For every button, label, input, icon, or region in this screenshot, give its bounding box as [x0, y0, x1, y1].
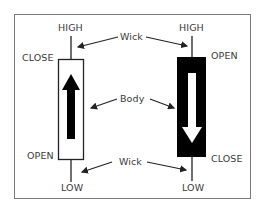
wick-arrow-right-top [146, 37, 187, 46]
callout-wick-top: Wick [120, 31, 143, 42]
label-right-close: CLOSE [211, 153, 243, 164]
label-right-high: HIGH [179, 22, 204, 33]
body-arrow-left [91, 99, 117, 108]
callout-arrows [78, 37, 187, 172]
label-left-close: CLOSE [22, 52, 54, 63]
wick-arrow-left-bottom [82, 162, 112, 172]
callout-body: Body [120, 93, 144, 104]
label-left-open: OPEN [27, 150, 54, 161]
label-right-low: LOW [182, 182, 204, 193]
wick-arrow-right-bottom [147, 162, 186, 170]
bearish-candle [177, 36, 206, 181]
callout-wick-bottom: Wick [119, 156, 142, 167]
label-left-high: HIGH [58, 22, 83, 33]
wick-arrow-left-top [78, 37, 118, 47]
body-arrow-right [150, 99, 174, 108]
bullish-candle [59, 36, 84, 182]
label-right-open: OPEN [211, 50, 238, 61]
label-left-low: LOW [61, 182, 83, 193]
